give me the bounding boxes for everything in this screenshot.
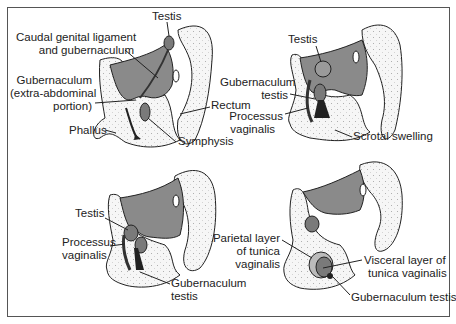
panel-2-gubernaculum-bulb: [314, 84, 326, 102]
label-gubernaculum-testis-3b: testis: [171, 290, 198, 303]
label-gubernaculum-extra-3: portion): [10, 100, 92, 113]
panel-3-rectum: [173, 195, 179, 207]
label-visceral-layer-2: tunica vaginalis: [368, 267, 447, 280]
panel-1-testis: [164, 36, 174, 50]
panel-4-body-wall: [360, 162, 403, 251]
label-symphysis: Symphysis: [178, 135, 234, 148]
leader-line: [167, 22, 169, 36]
panel-1-body-wall: [177, 26, 212, 144]
panel-2-body-wall: [362, 25, 402, 139]
label-testis-3: Testis: [75, 207, 104, 220]
label-processus-vaginalis-2b: vaginalis: [220, 123, 275, 136]
panel-1-rectum: [173, 70, 179, 82]
panel-4-left-mass: [305, 216, 319, 232]
label-gubernaculum-testis-3a: Gubernaculum: [171, 277, 246, 290]
label-testis-1: Testis: [152, 10, 181, 23]
label-caudal-genital-ligament-1: Caudal genital ligament: [16, 31, 134, 44]
label-parietal-layer-3: vaginalis: [200, 258, 280, 271]
label-gubernaculum-testis-2a: Gubernaculum: [220, 76, 288, 89]
label-caudal-genital-ligament-2: and gubernaculum: [16, 44, 134, 57]
panel-2-rectum: [353, 51, 359, 63]
panel-4-peritoneal-cavity: [303, 170, 364, 214]
label-processus-vaginalis-3a: Processus: [62, 236, 116, 249]
panel-2-testis: [315, 61, 331, 77]
label-visceral-layer-1: Visceral layer of: [364, 254, 446, 267]
panel-4-gubernaculum: [327, 273, 333, 279]
label-processus-vaginalis-3b: vaginalis: [62, 249, 107, 262]
label-scrotal-swelling: Scrotal swelling: [353, 130, 433, 143]
label-processus-vaginalis-2a: Processus: [220, 110, 283, 123]
label-gubernaculum-testis-2b: testis: [220, 89, 288, 102]
panel-2-peritoneal-cavity: [300, 40, 367, 96]
panel-4-rectum: [360, 184, 366, 196]
label-parietal-layer-2: of tunica: [200, 245, 280, 258]
label-parietal-layer-1: Parietal layer: [200, 232, 280, 245]
panel-3-testis: [124, 225, 138, 241]
label-testis-2: Testis: [288, 33, 317, 46]
label-gubernaculum-testis-4: Gubernaculum testis: [351, 291, 456, 304]
label-gubernaculum-extra-2: (extra-abdominal: [10, 87, 92, 100]
label-gubernaculum-extra-1: Gubernaculum: [10, 74, 92, 87]
label-phallus: Phallus: [69, 124, 107, 137]
